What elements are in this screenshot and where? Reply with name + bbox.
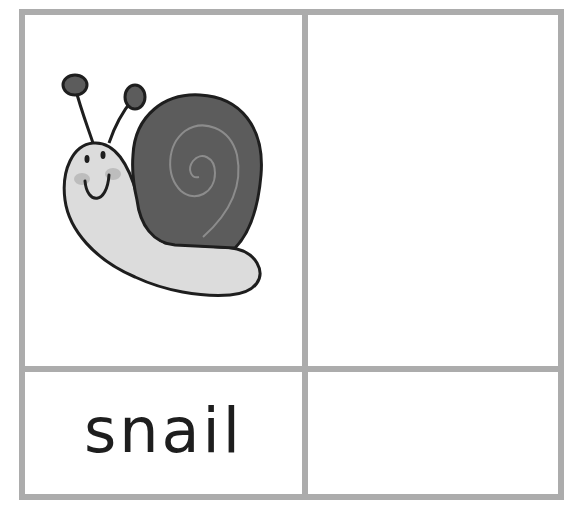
- word-label: snail: [84, 394, 243, 467]
- picture-cell: [25, 15, 302, 366]
- word-cell: snail: [25, 372, 302, 494]
- blank-word-cell: [308, 372, 558, 494]
- flashcard-grid: snail: [19, 9, 564, 500]
- blank-picture-cell: [308, 15, 558, 366]
- snail-icon: [25, 15, 302, 366]
